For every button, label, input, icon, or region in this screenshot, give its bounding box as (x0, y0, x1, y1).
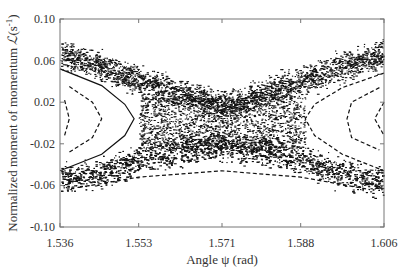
x-tick-label: 1.588 (287, 236, 314, 250)
y-tick-label: -0.02 (30, 137, 55, 151)
phase-portrait-chart: 1.5361.5531.5711.5881.606 0.100.060.02-0… (0, 0, 404, 279)
x-tick-label: 1.571 (209, 236, 236, 250)
x-tick-label: 1.536 (47, 236, 74, 250)
y-tick-label: -0.10 (30, 220, 55, 234)
y-axis-title: Normalized moment of momentum ℒ(s-1) (4, 14, 20, 231)
x-axis-title: Angle ψ (rad) (186, 252, 258, 267)
y-tick-label: -0.06 (30, 178, 55, 192)
y-tick-label: 0.06 (34, 54, 55, 68)
y-tick-label: 0.02 (34, 95, 55, 109)
x-tick-label: 1.553 (125, 236, 152, 250)
y-tick-label: 0.10 (34, 12, 55, 26)
x-tick-label: 1.606 (371, 236, 398, 250)
